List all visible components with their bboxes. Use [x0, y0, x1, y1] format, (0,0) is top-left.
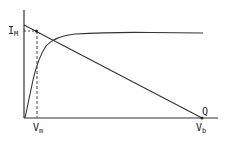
vb-label-sub: b — [202, 127, 206, 135]
q-point-label: Q — [202, 107, 208, 117]
operating-point-marker — [35, 30, 38, 33]
vm-axis-label: Vm — [33, 123, 43, 135]
im-axis-label: IM — [8, 26, 18, 38]
vb-axis-label: Vb — [196, 123, 206, 135]
load-line — [24, 25, 202, 118]
im-label-sub: M — [14, 30, 18, 38]
iv-chart — [0, 0, 228, 142]
vm-label-sub: m — [39, 127, 43, 135]
